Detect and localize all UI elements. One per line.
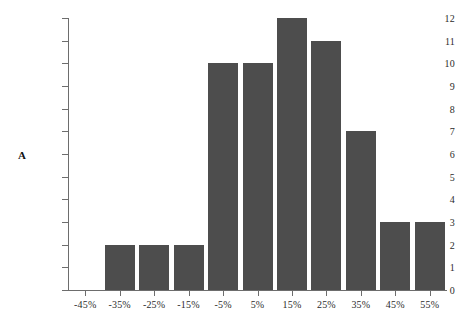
x-axis-tick xyxy=(154,290,155,296)
x-axis-tick-label: 15% xyxy=(282,299,301,310)
x-axis-tick xyxy=(189,290,190,296)
bar xyxy=(105,245,135,290)
y-axis-title: A xyxy=(18,149,26,161)
x-axis-tick xyxy=(258,290,259,296)
bar xyxy=(380,222,410,290)
bar-chart: A 0123456789101112 -45%-35%-25%-15%-5%5%… xyxy=(0,0,455,320)
x-axis-tick-label: 55% xyxy=(420,299,439,310)
x-axis-tick-label: 25% xyxy=(317,299,336,310)
x-axis-tick-label: 45% xyxy=(386,299,405,310)
bar xyxy=(415,222,445,290)
x-axis-tick-label: -25% xyxy=(143,299,165,310)
bars-container xyxy=(68,18,447,290)
x-axis-tick-label: -15% xyxy=(177,299,199,310)
x-axis-tick-label: 5% xyxy=(251,299,265,310)
x-axis-tick xyxy=(223,290,224,296)
bar xyxy=(311,41,341,290)
y-axis-tick xyxy=(62,290,68,291)
x-axis-tick-label: -5% xyxy=(214,299,231,310)
bar xyxy=(174,245,204,290)
x-axis-tick-label: -35% xyxy=(108,299,130,310)
x-axis-tick-label: 35% xyxy=(351,299,370,310)
x-axis-tick xyxy=(292,290,293,296)
bar xyxy=(243,63,273,290)
x-axis-tick xyxy=(85,290,86,296)
x-axis-tick xyxy=(326,290,327,296)
x-axis-tick xyxy=(361,290,362,296)
x-axis-tick xyxy=(395,290,396,296)
x-axis-tick-label: -45% xyxy=(74,299,96,310)
bar xyxy=(346,131,376,290)
x-axis-tick xyxy=(120,290,121,296)
bar xyxy=(277,18,307,290)
bar xyxy=(208,63,238,290)
x-axis-tick xyxy=(430,290,431,296)
bar xyxy=(139,245,169,290)
